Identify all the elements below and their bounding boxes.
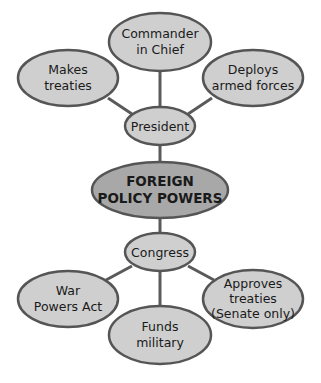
makes-treaties-line2: treaties — [44, 78, 92, 93]
node-foreign-policy-powers: FOREIGN POLICY POWERS — [92, 162, 228, 218]
line-deploys-president — [188, 98, 212, 114]
president-label: President — [131, 119, 189, 134]
deploys-line1: Deploys — [228, 62, 278, 77]
funds-line2: military — [136, 335, 184, 350]
foreign-policy-diagram: Commander in Chief Makes treaties Deploy… — [0, 0, 321, 383]
deploys-line2: armed forces — [212, 78, 294, 93]
congress-label: Congress — [131, 245, 189, 260]
line-congress-war-powers — [106, 266, 132, 280]
node-president: President — [125, 107, 195, 145]
node-deploys-armed-forces: Deploys armed forces — [203, 50, 303, 106]
approves-line1: Approves — [224, 276, 283, 291]
war-powers-line1: War — [56, 283, 81, 298]
commander-line1: Commander — [121, 26, 199, 41]
center-line1: FOREIGN — [126, 173, 194, 189]
funds-line1: Funds — [142, 319, 179, 334]
war-powers-line2: Powers Act — [34, 299, 102, 314]
node-approves-treaties: Approves treaties (Senate only) — [203, 270, 303, 328]
commander-line2: in Chief — [136, 42, 184, 57]
approves-line2: treaties — [229, 291, 277, 306]
node-commander-in-chief: Commander in Chief — [109, 13, 211, 71]
node-war-powers-act: War Powers Act — [18, 271, 118, 327]
node-congress: Congress — [125, 233, 195, 271]
line-congress-approves — [188, 266, 214, 280]
line-makes-treaties-president — [108, 98, 132, 114]
makes-treaties-line1: Makes — [48, 62, 87, 77]
node-makes-treaties: Makes treaties — [18, 50, 118, 106]
node-funds-military: Funds military — [109, 306, 211, 364]
approves-line3: (Senate only) — [211, 306, 295, 321]
center-line2: POLICY POWERS — [98, 190, 223, 206]
